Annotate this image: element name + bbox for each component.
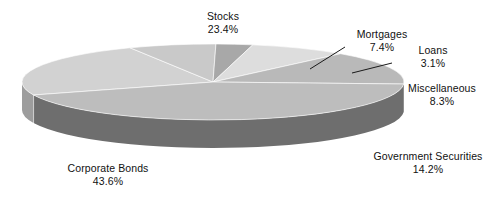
slice-label-loans-name: Loans — [392, 44, 474, 57]
pie-chart-figure: Stocks 23.4% Mortgages 7.4% Loans 3.1% M… — [0, 0, 496, 200]
slice-label-miscellaneous-percent: 8.3% — [390, 95, 494, 108]
slice-label-stocks: Stocks 23.4% — [168, 10, 278, 35]
slice-label-stocks-percent: 23.4% — [168, 23, 278, 36]
slice-label-corporate-bonds-percent: 43.6% — [38, 175, 178, 188]
slice-label-corporate-bonds: Corporate Bonds 43.6% — [38, 162, 178, 187]
slice-label-miscellaneous: Miscellaneous 8.3% — [390, 82, 494, 107]
slice-label-mortgages-name: Mortgages — [330, 28, 434, 41]
slice-label-government-securities: Government Securities 14.2% — [360, 150, 496, 175]
slice-label-stocks-name: Stocks — [168, 10, 278, 23]
slice-label-loans-percent: 3.1% — [392, 57, 474, 70]
slice-label-miscellaneous-name: Miscellaneous — [390, 82, 494, 95]
slice-label-loans: Loans 3.1% — [392, 44, 474, 69]
pie-top-slices — [22, 44, 404, 120]
slice-label-government-securities-percent: 14.2% — [360, 163, 496, 176]
slice-label-corporate-bonds-name: Corporate Bonds — [38, 162, 178, 175]
slice-label-government-securities-name: Government Securities — [360, 150, 496, 163]
